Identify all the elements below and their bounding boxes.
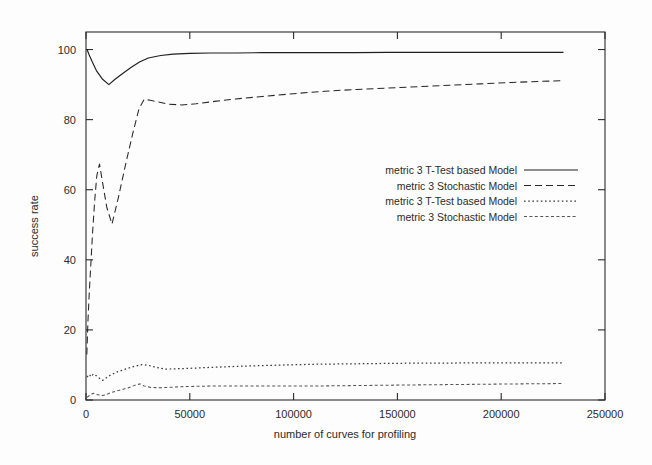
success-rate-line-chart: 050000100000150000200000250000 020406080… <box>0 0 652 465</box>
chart-figure: 050000100000150000200000250000 020406080… <box>0 0 652 465</box>
legend-label-3: metric 3 T-Test based Model <box>385 195 517 207</box>
y-tick-label: 100 <box>58 44 76 56</box>
x-tick-label: 200000 <box>483 408 520 420</box>
x-tick-label: 150000 <box>379 408 416 420</box>
x-tick-label: 50000 <box>175 408 206 420</box>
legend-label-4: metric 3 Stochastic Model <box>397 211 517 223</box>
y-axis-title: success rate <box>28 195 40 257</box>
y-tick-label: 20 <box>64 324 76 336</box>
x-tick-label: 0 <box>83 408 89 420</box>
legend-label-1: metric 3 T-Test based Model <box>385 164 517 176</box>
y-tick-label: 60 <box>64 184 76 196</box>
y-tick-label: 0 <box>70 394 76 406</box>
chart-background <box>0 0 652 465</box>
y-tick-label: 80 <box>64 114 76 126</box>
legend-label-2: metric 3 Stochastic Model <box>397 180 517 192</box>
x-tick-label: 100000 <box>275 408 312 420</box>
x-axis-title: number of curves for profiling <box>274 428 416 440</box>
y-tick-label: 40 <box>64 254 76 266</box>
x-tick-label: 250000 <box>587 408 624 420</box>
